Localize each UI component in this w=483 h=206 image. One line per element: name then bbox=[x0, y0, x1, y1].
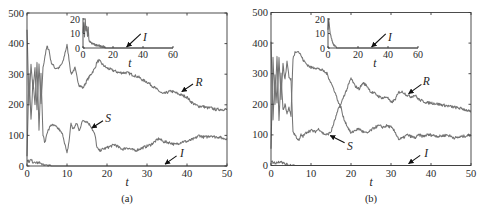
y-tick-label: 0 bbox=[320, 43, 325, 54]
x-tick-label: 0 bbox=[81, 49, 86, 60]
panel-label: (a) bbox=[121, 193, 133, 205]
x-tick-label: 0 bbox=[268, 168, 273, 179]
y-tick-label: 10 bbox=[70, 28, 80, 39]
panel-a-chart: 010203040500100200300400500RSIt(a)020406… bbox=[8, 8, 232, 206]
y-tick-label: 400 bbox=[8, 38, 24, 49]
panel-b-chart: 010203040500100200300400500RSIt(b)020406… bbox=[252, 7, 476, 205]
x-tick-label: 30 bbox=[386, 168, 397, 179]
annotation-label-S: S bbox=[105, 112, 111, 124]
y-tick-label: 100 bbox=[8, 130, 24, 141]
x-tick-label: 60 bbox=[413, 49, 423, 60]
y-tick-label: 0 bbox=[19, 161, 24, 172]
x-axis-label: t bbox=[125, 176, 129, 188]
y-tick-label: 500 bbox=[8, 8, 24, 19]
x-tick-label: 10 bbox=[62, 168, 73, 179]
y-tick-label: 0 bbox=[263, 160, 268, 171]
x-tick-label: 20 bbox=[353, 49, 363, 60]
y-tick-label: 200 bbox=[8, 99, 24, 110]
y-tick-label: 10 bbox=[315, 28, 325, 39]
x-tick-label: 40 bbox=[383, 49, 393, 60]
inset-background bbox=[328, 17, 420, 48]
y-tick-label: 100 bbox=[252, 129, 268, 140]
x-tick-label: 20 bbox=[346, 168, 357, 179]
y-tick-label: 400 bbox=[252, 38, 268, 49]
y-tick-label: 500 bbox=[252, 7, 268, 18]
y-tick-label: 0 bbox=[75, 43, 80, 54]
x-tick-label: 60 bbox=[168, 49, 178, 60]
panel-label: (b) bbox=[365, 193, 378, 205]
x-tick-label: 30 bbox=[142, 168, 153, 179]
x-tick-label: 40 bbox=[182, 168, 193, 179]
x-tick-label: 20 bbox=[108, 49, 118, 60]
x-tick-label: 50 bbox=[222, 168, 233, 179]
annotation-label-S: S bbox=[347, 140, 353, 152]
x-tick-label: 10 bbox=[306, 168, 317, 179]
y-tick-label: 20 bbox=[70, 14, 80, 25]
x-tick-label: 40 bbox=[138, 49, 148, 60]
x-tick-label: 0 bbox=[326, 49, 331, 60]
y-tick-label: 300 bbox=[252, 68, 268, 79]
x-axis-label: t bbox=[369, 176, 373, 188]
x-tick-label: 40 bbox=[426, 168, 437, 179]
inset-background bbox=[83, 17, 175, 48]
figure: 010203040500100200300400500RSIt(a)020406… bbox=[0, 0, 483, 206]
y-tick-label: 200 bbox=[252, 99, 268, 110]
x-tick-label: 20 bbox=[102, 168, 113, 179]
y-tick-label: 300 bbox=[8, 69, 24, 80]
annotation-label-R: R bbox=[422, 75, 430, 87]
x-tick-label: 50 bbox=[466, 168, 477, 179]
y-tick-label: 20 bbox=[315, 14, 325, 25]
x-tick-label: 0 bbox=[24, 168, 29, 179]
annotation-label-R: R bbox=[194, 76, 202, 88]
